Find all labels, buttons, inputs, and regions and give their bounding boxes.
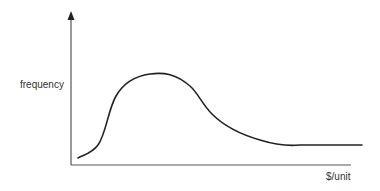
distribution-chart [0,0,380,191]
y-axis-arrow-icon [68,11,75,20]
y-axis-label: frequency [20,79,64,90]
x-axis-label: $/unit [326,171,350,182]
distribution-curve [78,73,362,158]
